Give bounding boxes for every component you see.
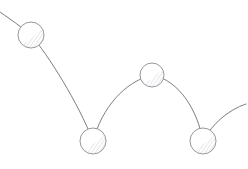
trajectory-figure: [0, 0, 248, 169]
trajectory-canvas: [0, 0, 248, 169]
